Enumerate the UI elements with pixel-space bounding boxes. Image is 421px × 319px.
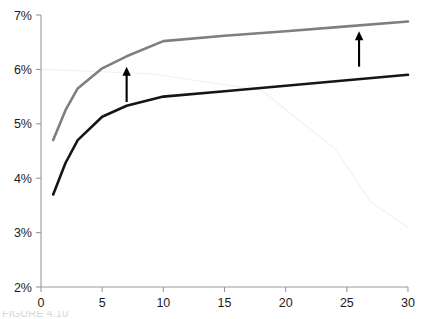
y-tick-label: 3% xyxy=(14,226,32,240)
y-tick-label: 6% xyxy=(14,63,32,77)
x-tick-label: 30 xyxy=(401,296,415,310)
arrow-right-head xyxy=(355,31,363,40)
line-chart: 2%3%4%5%6%7%051015202530 xyxy=(0,0,421,319)
x-tick-label: 25 xyxy=(340,296,354,310)
y-tick-label: 2% xyxy=(14,281,32,295)
y-tick-label: 4% xyxy=(14,172,32,186)
y-tick-label: 5% xyxy=(14,117,32,131)
x-tick-label: 15 xyxy=(218,296,232,310)
chart-figure: 2%3%4%5%6%7%051015202530 FIGURE 4.10 xyxy=(0,0,421,319)
series-lower-curve xyxy=(53,75,408,195)
figure-caption-cutoff: FIGURE 4.10 xyxy=(0,311,421,319)
arrow-left-head xyxy=(122,67,130,76)
x-tick-label: 10 xyxy=(156,296,170,310)
y-tick-label: 7% xyxy=(14,9,32,23)
x-tick-label: 0 xyxy=(38,296,45,310)
scan-streak xyxy=(41,69,408,227)
x-tick-label: 5 xyxy=(99,296,106,310)
figure-caption-text: FIGURE 4.10 xyxy=(2,311,421,319)
x-tick-label: 20 xyxy=(279,296,293,310)
